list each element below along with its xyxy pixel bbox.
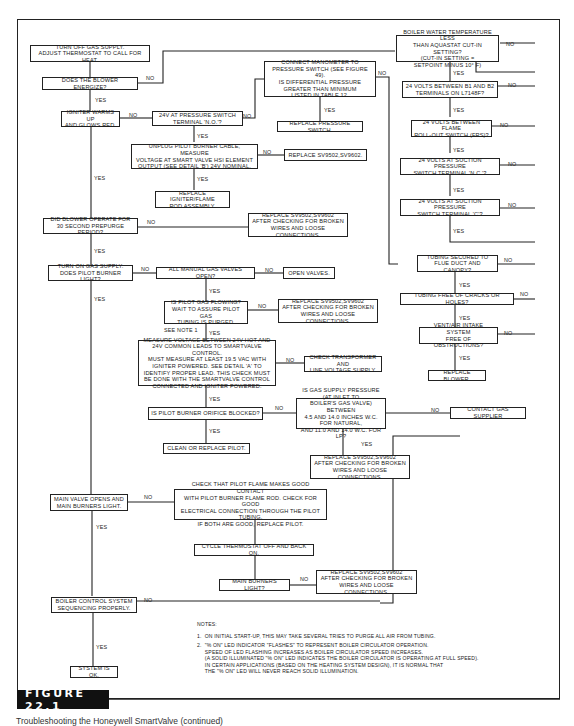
label-yes: YES (209, 396, 220, 402)
label-yes: YES (459, 355, 470, 361)
box-vent-air: VENT/AIR INTAKE SYSTEM FREE OF OBSTRUCTI… (419, 327, 498, 344)
box-check-transformer: CHECK TRANSFORMER AND LINE VOLTAGE SUPPL… (304, 356, 382, 372)
label-no: NO (300, 576, 309, 582)
label-yes: YES (95, 97, 106, 103)
box-turn-off-gas: TURN OFF GAS SUPPLY. ADJUST THERMOSTAT T… (30, 45, 150, 62)
label-no: NO (263, 149, 272, 155)
box-connect-manometer: CONNECT MANOMETER TO PRESSURE SWITCH (SE… (264, 61, 376, 97)
label-yes: YES (209, 428, 220, 434)
label-no: NO (520, 291, 529, 297)
box-open-valves: OPEN VALVES. (283, 267, 335, 279)
label-no: NO (243, 113, 252, 119)
box-boiler-water-temp: BOILER WATER TEMPERATURE LESS THAN AQUAS… (396, 35, 499, 62)
label-yes: YES (96, 524, 107, 530)
label-no: NO (144, 597, 153, 603)
label-no: NO (500, 122, 509, 128)
label-yes: YES (94, 296, 105, 302)
box-pilot-gas-flowing: IS PILOT GAS FLOWING? WAIT TO ASSURE PIL… (164, 301, 248, 324)
box-24v-pressure-switch: 24V AT PRESSURE SWITCH TERMINAL 'N.O.'? (152, 111, 243, 126)
box-boiler-sequencing: BOILER CONTROL SYSTEM SEQUENCING PROPERL… (51, 597, 137, 613)
label-no: NO (275, 405, 284, 411)
note-1: 1. ON INITIAL START-UP, THIS MAY TAKE SE… (197, 633, 435, 640)
label-no: NO (508, 202, 517, 208)
label-no: NO (508, 82, 517, 88)
box-unplug-pilot: UNPLUG PILOT BURNER CABLE, MEASURE VOLTA… (131, 144, 258, 169)
box-tubing-free: TUBING FREE OF CRACKS OR HOLES? (400, 293, 514, 305)
label-yes: YES (324, 107, 335, 113)
label-no: NO (144, 494, 153, 500)
box-replace-sv-1: REPLACE SV9502,SV9602. (284, 149, 367, 161)
box-replace-sv-2: REPLACE SV9502,SV9602 AFTER CHECKING FOR… (248, 213, 348, 237)
label-no: NO (431, 407, 440, 413)
box-orifice-blocked: IS PILOT BURNER ORIFICE BLOCKED? (148, 407, 263, 420)
label-yes: YES (361, 441, 372, 447)
box-volts-suction-nc: 24 VOLTS AT SUCTION PRESSURE SWITCH TERM… (400, 158, 500, 175)
label-yes: YES (453, 70, 464, 76)
box-main-valve-opens: MAIN VALVE OPENS AND MAIN BURNERS LIGHT. (50, 494, 128, 511)
label-no: NO (508, 161, 517, 167)
box-gas-supply-pressure: IS GAS SUPPLY PRESSURE (AT INLET TO BOIL… (296, 398, 386, 429)
label-yes: YES (453, 228, 464, 234)
see-note-1: SEE NOTE 1 (164, 327, 198, 333)
box-system-ok: SYSTEM IS OK. (70, 666, 118, 678)
label-yes: YES (459, 282, 470, 288)
figure-caption: Troubleshooting the Honeywell SmartValve… (16, 716, 223, 726)
box-volts-b1-b2: 24 VOLTS BETWEEN B1 AND B2 TERMINALS ON … (402, 81, 498, 98)
label-no: NO (265, 267, 274, 273)
figure-label: FIGURE 22.1 (17, 690, 109, 709)
label-yes: YES (453, 107, 464, 113)
label-yes: YES (197, 133, 208, 139)
box-cycle-thermostat: CYCLE THERMOSTAT OFF AND BACK ON. (194, 544, 314, 556)
label-yes: YES (453, 147, 464, 153)
label-no: NO (147, 219, 156, 225)
label-yes: YES (459, 315, 470, 321)
box-replace-blower: REPLACE BLOWER. (428, 370, 486, 381)
note-2: 2. "% ON" LED INDICATOR "FLASHES" TO REP… (197, 642, 479, 675)
box-measure-voltage: MEASURE VOLTAGE BETWEEN 24V HOT AND 24V … (138, 340, 276, 386)
label-yes: YES (197, 176, 208, 182)
label-no: NO (129, 112, 138, 118)
box-replace-sv-3: REPLACE SV9502,SV9602 AFTER CHECKING FOR… (278, 299, 378, 323)
box-blower-energize: DOES THE BLOWER ENERGIZE? (42, 77, 138, 90)
box-replace-igniter: REPLACE IGNITER/FLAME ROD ASSEMBLY. (155, 191, 230, 208)
label-no: NO (286, 357, 295, 363)
label-no: NO (504, 330, 513, 336)
label-yes: YES (209, 288, 220, 294)
label-yes: YES (94, 175, 105, 181)
label-yes: YES (96, 644, 107, 650)
box-volts-frs: 24 VOLTS BETWEEN FLAME ROLL-OUT SWITCH (… (411, 120, 492, 137)
label-no: NO (258, 303, 267, 309)
notes-title: NOTES: (197, 621, 217, 628)
label-no: NO (506, 41, 515, 47)
label-no: NO (141, 266, 150, 272)
box-replace-pressure-switch: REPLACE PRESSURE SWITCH. (277, 121, 363, 132)
label-no: NO (378, 70, 387, 76)
box-clean-pilot: CLEAN OR REPLACE PILOT. (163, 443, 250, 454)
box-contact-supplier: CONTACT GAS SUPPLIER (450, 407, 526, 419)
box-volts-suction-c: 24 VOLTS AT SUCTION PRESSURE SWITCH TERM… (400, 199, 500, 216)
box-blower-prepurge: DID BLOWER OPERATE FOR 30 SECOND PREPURG… (43, 218, 138, 234)
box-manual-valves: ALL MANUAL GAS VALVES OPEN? (156, 267, 255, 279)
box-igniter-warms: IGNITER WARMS UP AND GLOWS RED. (61, 111, 120, 127)
box-replace-sv-4: REPLACE SV9502,SV9602 AFTER CHECKING FOR… (310, 455, 410, 479)
label-yes: YES (209, 330, 220, 336)
box-main-burners-light: MAIN BURNERS LIGHT? (219, 579, 290, 591)
label-no: NO (146, 75, 155, 81)
box-tubing-secured: TUBING SECURED TO FLUE DUCT AND CANOPY? (417, 255, 498, 272)
box-check-pilot-flame: CHECK THAT PILOT FLAME MAKES GOOD CONTAC… (174, 489, 327, 520)
label-yes: YES (94, 248, 105, 254)
box-turn-on-gas: TURN ON GAS SUPPLY. DOES PILOT BURNER LI… (48, 265, 133, 281)
box-replace-sv-5: REPLACE SV9502,SV9602 AFTER CHECKING FOR… (316, 570, 417, 594)
label-no: NO (504, 257, 513, 263)
label-yes: YES (453, 187, 464, 193)
